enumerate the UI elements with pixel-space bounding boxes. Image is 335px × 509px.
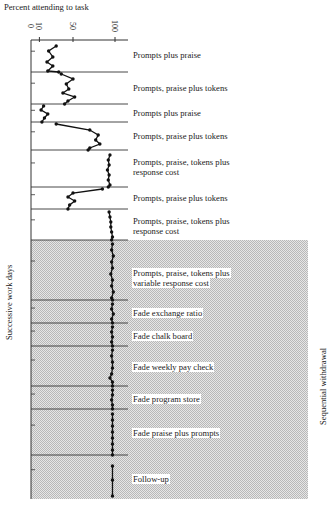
data-point <box>46 69 49 72</box>
phase-label: Fade program store <box>132 394 201 404</box>
data-point <box>42 104 45 107</box>
data-point <box>111 407 114 410</box>
data-point <box>111 321 114 324</box>
phase-label: Follow-up <box>132 474 170 484</box>
data-point <box>110 317 113 320</box>
data-point <box>66 99 69 102</box>
data-point <box>111 393 114 396</box>
data-point <box>111 348 114 351</box>
data-point <box>108 215 111 218</box>
data-point <box>110 307 113 310</box>
data-point <box>73 199 76 202</box>
data-point <box>111 384 114 387</box>
data-point <box>109 272 112 275</box>
data-point <box>106 168 109 171</box>
data-point <box>63 102 66 105</box>
data-point <box>111 325 114 328</box>
data-point <box>110 398 113 401</box>
sequential-withdrawal-label: Sequential withdrawal <box>318 348 328 425</box>
data-point <box>111 464 114 467</box>
phase-label: Fade praise plus prompts <box>132 428 220 438</box>
data-point <box>111 403 114 406</box>
value-tick-label: 50 <box>68 22 77 30</box>
data-point <box>86 148 89 151</box>
data-point <box>67 87 70 90</box>
data-point <box>71 77 74 80</box>
phase-label: Prompts, praise, tokens plus <box>132 216 231 226</box>
data-point <box>111 302 114 305</box>
data-point <box>109 220 112 223</box>
data-point <box>98 142 101 145</box>
data-point <box>71 191 74 194</box>
data-point <box>110 238 113 241</box>
data-point <box>109 225 112 228</box>
data-point <box>112 312 115 315</box>
data-point <box>107 210 110 213</box>
data-point <box>112 290 115 293</box>
data-point <box>46 112 49 115</box>
data-point <box>111 424 114 427</box>
phase-label: Prompts, praise, tokens plus <box>132 157 231 167</box>
phase-label: variable response cost <box>132 278 210 288</box>
data-point <box>94 138 97 141</box>
data-point <box>111 478 114 481</box>
data-point <box>51 64 54 67</box>
data-point <box>111 298 114 301</box>
data-point <box>97 133 100 136</box>
data-point <box>110 354 113 357</box>
value-tick-label: 100 <box>110 20 119 32</box>
data-point <box>110 340 113 343</box>
data-point <box>111 418 114 421</box>
data-point <box>111 278 114 281</box>
phase-label: Prompts plus praise <box>132 50 202 60</box>
data-point <box>107 178 110 181</box>
data-point <box>110 260 113 263</box>
data-point <box>51 55 54 58</box>
phase-label: Prompts, praise, tokens plus <box>132 268 231 278</box>
phase-label: Fade weekly pay check <box>132 362 214 372</box>
chart-title: Percent attending to task <box>4 2 89 12</box>
data-point <box>111 242 114 245</box>
phase-label: Prompts, praise plus tokens <box>132 83 229 93</box>
data-point <box>111 430 114 433</box>
data-point <box>111 335 114 338</box>
data-point <box>111 448 114 451</box>
data-point <box>45 60 48 63</box>
phase-label: response cost <box>132 167 180 177</box>
data-point <box>111 436 114 439</box>
data-point <box>111 388 114 391</box>
data-point <box>40 120 43 123</box>
phase-label: Prompts, praise plus tokens <box>132 131 229 141</box>
phase-series <box>56 124 100 150</box>
data-point <box>61 91 64 94</box>
data-point <box>111 442 114 445</box>
data-point <box>107 185 110 188</box>
data-point <box>111 453 114 456</box>
data-point <box>110 284 113 287</box>
data-point <box>65 82 68 85</box>
data-point <box>88 128 91 131</box>
data-point <box>108 153 111 156</box>
data-point <box>110 330 113 333</box>
data-point <box>101 187 104 190</box>
data-point <box>47 49 50 52</box>
data-point <box>112 254 115 257</box>
data-point <box>66 207 69 210</box>
data-point <box>55 122 58 125</box>
y-axis-label: Successive work days <box>4 265 14 340</box>
value-tick-label: 10 <box>34 22 43 30</box>
data-point <box>110 248 113 251</box>
data-point <box>60 72 63 75</box>
data-point <box>111 266 114 269</box>
data-point <box>107 173 110 176</box>
data-point <box>111 366 114 369</box>
phase-label: Prompts plus praise <box>132 108 202 118</box>
data-point <box>107 158 110 161</box>
data-point <box>111 235 114 238</box>
data-point <box>43 116 46 119</box>
data-point <box>108 376 111 379</box>
data-point <box>55 44 58 47</box>
data-point <box>110 372 113 375</box>
data-point <box>111 380 114 383</box>
data-point <box>107 163 110 166</box>
